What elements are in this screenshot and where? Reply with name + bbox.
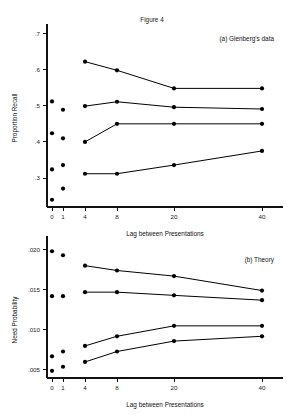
- data-point: [83, 104, 87, 108]
- data-point: [83, 264, 87, 268]
- panel-a-label: (a) Glenberg's data: [219, 35, 274, 43]
- data-point: [260, 107, 264, 111]
- panel-b-theory: (b) Theory Need Probability .005.010.015…: [0, 230, 287, 415]
- series-line-series-3: [85, 124, 262, 142]
- y-tick-label: .020: [28, 246, 41, 253]
- series-line-series-1-top: [85, 62, 262, 89]
- data-point: [172, 339, 176, 343]
- data-point: [83, 140, 87, 144]
- isolated-data-point: [61, 163, 65, 167]
- panel-b-label: (b) Theory: [245, 256, 275, 264]
- isolated-data-point: [50, 294, 54, 298]
- isolated-data-point: [61, 349, 65, 353]
- data-point: [260, 86, 264, 90]
- isolated-data-point: [50, 198, 54, 202]
- isolated-data-point: [61, 108, 65, 112]
- y-tick-label: .6: [35, 66, 41, 73]
- panel-b-xlabel: Lag between Presentations: [126, 401, 203, 409]
- panel-a-y-ticks: .3.4.5.6.7: [35, 30, 47, 182]
- isolated-data-point: [50, 131, 54, 135]
- isolated-data-point: [61, 186, 65, 190]
- y-tick-label: .7: [35, 30, 41, 37]
- x-tick-label: 8: [115, 213, 119, 220]
- isolated-data-point: [61, 294, 65, 298]
- y-tick-label: .4: [35, 138, 41, 145]
- panel-a-ylabel: Proportion Recall: [11, 93, 19, 142]
- x-tick-label: 1: [61, 213, 65, 220]
- data-point: [83, 290, 87, 294]
- data-point: [115, 290, 119, 294]
- data-point: [172, 324, 176, 328]
- data-point: [172, 86, 176, 90]
- isolated-data-point: [61, 365, 65, 369]
- data-point: [115, 349, 119, 353]
- data-point: [172, 122, 176, 126]
- isolated-data-point: [50, 354, 54, 358]
- isolated-data-point: [50, 249, 54, 253]
- data-point: [172, 293, 176, 297]
- data-point: [260, 298, 264, 302]
- data-point: [115, 122, 119, 126]
- series-line-series-4-bottom: [85, 151, 262, 174]
- y-tick-label: .015: [28, 286, 41, 293]
- isolated-data-point: [61, 136, 65, 140]
- data-point: [115, 268, 119, 272]
- data-point: [115, 100, 119, 104]
- x-tick-label: 40: [259, 384, 266, 391]
- data-point: [172, 163, 176, 167]
- figure-title: Figure 4: [140, 16, 164, 24]
- x-tick-label: 0: [50, 384, 54, 391]
- isolated-data-point: [50, 167, 54, 171]
- x-tick-label: 4: [83, 213, 87, 220]
- data-point: [83, 172, 87, 176]
- data-point: [260, 334, 264, 338]
- y-tick-label: .010: [28, 326, 41, 333]
- y-tick-label: .5: [35, 102, 41, 109]
- panel-a-plot-area: [50, 60, 264, 202]
- data-point: [83, 344, 87, 348]
- data-point: [83, 60, 87, 64]
- data-point: [260, 122, 264, 126]
- figure-4-root: Figure 4 (a) Glenberg's data Proportion …: [0, 0, 287, 415]
- panel-a-svg: Figure 4 (a) Glenberg's data Proportion …: [0, 0, 287, 245]
- panel-a-axes: [47, 24, 283, 207]
- data-point: [83, 360, 87, 364]
- data-point: [115, 68, 119, 72]
- x-tick-label: 20: [171, 213, 178, 220]
- panel-b-svg: (b) Theory Need Probability .005.010.015…: [0, 230, 287, 415]
- data-point: [260, 324, 264, 328]
- panel-b-plot-area: [50, 249, 264, 373]
- y-tick-label: .005: [28, 366, 41, 373]
- x-tick-label: 1: [61, 384, 65, 391]
- data-point: [172, 105, 176, 109]
- panel-a-glenberg-data: Figure 4 (a) Glenberg's data Proportion …: [0, 0, 287, 245]
- isolated-data-point: [50, 99, 54, 103]
- x-tick-label: 8: [115, 384, 119, 391]
- data-point: [115, 334, 119, 338]
- isolated-data-point: [61, 253, 65, 257]
- x-tick-label: 40: [259, 213, 266, 220]
- isolated-data-point: [50, 369, 54, 373]
- panel-b-ylabel: Need Probability: [11, 296, 19, 344]
- panel-a-x-ticks: 01482040: [50, 207, 266, 220]
- y-tick-label: .3: [35, 174, 41, 181]
- data-point: [260, 149, 264, 153]
- x-tick-label: 0: [50, 213, 54, 220]
- x-tick-label: 4: [83, 384, 87, 391]
- panel-b-y-ticks: .005.010.015.020: [28, 246, 47, 373]
- x-tick-label: 20: [171, 384, 178, 391]
- data-point: [172, 274, 176, 278]
- data-point: [115, 172, 119, 176]
- data-point: [260, 288, 264, 292]
- panel-b-x-ticks: 01482040: [50, 378, 266, 391]
